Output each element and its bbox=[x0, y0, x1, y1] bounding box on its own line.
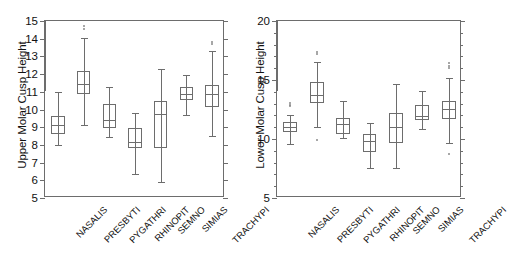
y-minor-tick-right-lower bbox=[460, 151, 463, 152]
whisker-cap-high bbox=[209, 51, 216, 52]
whisker-cap-high bbox=[106, 87, 113, 88]
y-tick-label-lower-5: 5 bbox=[264, 192, 270, 204]
y-tick-label-upper-15: 15 bbox=[25, 15, 38, 27]
outlier-point bbox=[211, 43, 213, 45]
median-line bbox=[205, 94, 218, 95]
median-line bbox=[103, 120, 116, 121]
y-tick-upper-11 bbox=[40, 92, 45, 93]
y-tick-label-upper-10: 10 bbox=[25, 104, 38, 116]
median-line bbox=[442, 109, 456, 110]
box-iqr bbox=[442, 101, 456, 118]
y-minor-tick-right-lower bbox=[460, 174, 463, 175]
outlier-point bbox=[316, 53, 318, 55]
median-line bbox=[336, 124, 350, 125]
y-minor-tick-lower bbox=[274, 186, 277, 187]
outlier-point bbox=[448, 65, 450, 67]
box-iqr bbox=[415, 105, 429, 120]
box-iqr bbox=[205, 85, 218, 107]
median-line bbox=[389, 127, 403, 128]
y-tick-upper-6 bbox=[40, 180, 45, 181]
whisker-cap-low bbox=[81, 125, 88, 126]
median-line bbox=[128, 142, 141, 143]
y-tick-right-lower-10 bbox=[460, 139, 465, 140]
y-tick-right-upper-9 bbox=[223, 127, 228, 128]
whisker-cap-low bbox=[393, 168, 400, 169]
y-tick-label-upper-9: 9 bbox=[32, 121, 38, 133]
whisker-cap-high bbox=[314, 62, 321, 63]
whisker-cap-low bbox=[209, 136, 216, 137]
y-tick-label-upper-13: 13 bbox=[25, 50, 38, 62]
box-iqr bbox=[336, 118, 350, 135]
y-minor-tick-lower bbox=[274, 45, 277, 46]
whisker-cap-high bbox=[367, 123, 374, 124]
whisker-cap-low bbox=[419, 129, 426, 130]
y-tick-label-upper-12: 12 bbox=[25, 68, 38, 80]
whisker-cap-high bbox=[340, 101, 347, 102]
y-tick-label-upper-7: 7 bbox=[32, 157, 38, 169]
y-tick-right-lower-20 bbox=[460, 21, 465, 22]
y-minor-tick-lower bbox=[274, 115, 277, 116]
whisker-cap-low bbox=[287, 144, 294, 145]
y-minor-tick-lower bbox=[274, 151, 277, 152]
whisker-cap-high bbox=[419, 91, 426, 92]
y-minor-tick-lower bbox=[274, 127, 277, 128]
y-minor-tick-right-lower bbox=[460, 127, 463, 128]
x-axis-label-lower-SIMIAS: SIMIAS bbox=[436, 204, 466, 234]
y-minor-tick-lower bbox=[274, 163, 277, 164]
x-tick-top-lower-TRACHYPI bbox=[277, 86, 278, 91]
y-tick-lower-20 bbox=[272, 21, 277, 22]
median-line bbox=[51, 125, 64, 126]
y-tick-lower-10 bbox=[272, 139, 277, 140]
x-axis-label-lower-TRACHYPI: TRACHYPI bbox=[467, 204, 508, 245]
y-minor-tick-right-lower bbox=[460, 163, 463, 164]
x-tick-top-upper-TRACHYPI bbox=[45, 86, 46, 91]
y-tick-upper-12 bbox=[40, 74, 45, 75]
whisker-cap-high bbox=[55, 92, 62, 93]
plot-area-upper: 56789101112131415 bbox=[44, 20, 224, 197]
whisker-cap-low bbox=[55, 145, 62, 146]
whisker-cap-high bbox=[287, 115, 294, 116]
box-iqr bbox=[128, 128, 141, 148]
median-line bbox=[415, 116, 429, 117]
y-tick-right-upper-14 bbox=[223, 39, 228, 40]
outlier-point bbox=[448, 67, 450, 69]
y-minor-tick-right-lower bbox=[460, 92, 463, 93]
median-line bbox=[154, 114, 167, 115]
y-tick-upper-5 bbox=[40, 198, 45, 199]
whisker-cap-low bbox=[183, 115, 190, 116]
y-tick-label-upper-11: 11 bbox=[26, 86, 38, 98]
y-minor-tick-right-lower bbox=[460, 33, 463, 34]
whisker-cap-high bbox=[158, 69, 165, 70]
box-iqr bbox=[77, 71, 90, 94]
y-tick-right-lower-15 bbox=[460, 80, 465, 81]
y-tick-lower-15 bbox=[272, 80, 277, 81]
y-tick-right-upper-11 bbox=[223, 92, 228, 93]
outlier-point bbox=[83, 28, 85, 30]
whisker-cap-low bbox=[340, 138, 347, 139]
y-tick-upper-15 bbox=[40, 21, 45, 22]
box-iqr bbox=[310, 82, 324, 103]
median-line bbox=[283, 127, 297, 128]
box-iqr bbox=[103, 104, 116, 127]
whisker-cap-low bbox=[106, 137, 113, 138]
whisker-cap-low bbox=[132, 174, 139, 175]
y-tick-right-upper-15 bbox=[223, 21, 228, 22]
y-tick-label-upper-14: 14 bbox=[25, 33, 38, 45]
whisker-cap-high bbox=[446, 78, 453, 79]
y-minor-tick-right-lower bbox=[460, 68, 463, 69]
y-tick-lower-5 bbox=[272, 198, 277, 199]
y-axis-title-lower: Lower Molar Cusp Height bbox=[254, 10, 270, 200]
y-minor-tick-lower bbox=[274, 92, 277, 93]
y-tick-right-upper-13 bbox=[223, 56, 228, 57]
whisker-cap-high bbox=[132, 113, 139, 114]
y-tick-label-upper-8: 8 bbox=[32, 139, 38, 151]
y-minor-tick-right-lower bbox=[460, 115, 463, 116]
y-tick-right-upper-5 bbox=[223, 198, 228, 199]
panel-upper-molar: Upper Molar Cusp Height 5678910111213141… bbox=[0, 0, 237, 258]
whisker-cap-high bbox=[183, 75, 190, 76]
y-minor-tick-lower bbox=[274, 104, 277, 105]
panel-lower-molar: Lower Molar Cusp Height 5101520 NASALISP… bbox=[238, 0, 475, 258]
median-line bbox=[180, 94, 193, 95]
y-tick-right-upper-7 bbox=[223, 163, 228, 164]
